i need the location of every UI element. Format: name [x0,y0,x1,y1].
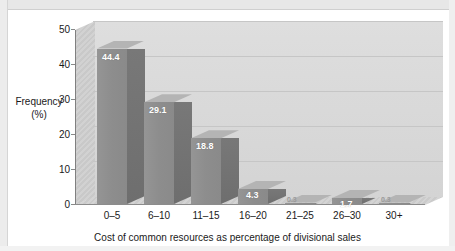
x-tick-label-11-15: 11–15 [183,210,229,221]
page-frame-bottom [0,246,455,251]
bar-value-label-16-20: 4.3 [246,190,259,200]
y-tick-mark-20 [71,134,75,135]
x-axis-line [75,204,425,205]
x-tick-label-26-30: 26–30 [324,210,370,221]
page-frame-left [0,0,7,251]
bar-side-face [174,102,192,204]
bar-value-label-30+: 0.3 [381,196,391,203]
gridline-50 [93,21,443,22]
y-axis-title-line2: (%) [8,108,70,121]
y-tick-mark-10 [71,169,75,170]
gridline-40 [93,56,443,57]
page-frame-right [449,0,455,251]
bar-side-face [127,49,145,204]
bar-6-10 [144,102,174,204]
plot-area: 01020304050 44.429.118.84.30.31.70.3 0–5… [75,22,443,205]
plot-side-wall [75,22,95,205]
bar-value-label-0-5: 44.4 [102,52,120,62]
y-tick-label-20: 20 [59,129,70,140]
y-tick-label-10: 10 [59,164,70,175]
bar-value-label-26-30: 1.7 [340,199,353,209]
bar-side-face [221,138,239,204]
x-tick-label-0-5: 0–5 [89,210,135,221]
x-axis-title: Cost of common resources as percentage o… [0,232,455,243]
bar-0-5 [97,49,127,204]
x-tick-label-30+: 30+ [371,210,417,221]
page-frame-top [0,0,455,9]
gridline-30 [93,91,443,92]
y-tick-mark-30 [71,99,75,100]
y-tick-mark-50 [71,29,75,30]
bar-front-face [144,102,174,204]
y-axis-line [75,30,76,205]
page-frame-top-rule [0,9,455,10]
y-tick-label-30: 30 [59,94,70,105]
bar-value-label-6-10: 29.1 [149,105,167,115]
y-tick-mark-0 [71,204,75,205]
y-tick-mark-40 [71,64,75,65]
y-tick-label-40: 40 [59,59,70,70]
y-tick-label-50: 50 [59,24,70,35]
x-tick-label-16-20: 16–20 [230,210,276,221]
y-tick-label-0: 0 [64,199,70,210]
bar-front-face [97,49,127,204]
x-tick-label-6-10: 6–10 [136,210,182,221]
bar-value-label-21-25: 0.3 [287,196,297,203]
x-tick-label-21-25: 21–25 [277,210,323,221]
bar-value-label-11-15: 18.8 [196,141,214,151]
page-frame-left-rule [7,0,8,251]
chart-figure: Frequency (%) 01020304050 44.429.118.84.… [0,0,455,251]
